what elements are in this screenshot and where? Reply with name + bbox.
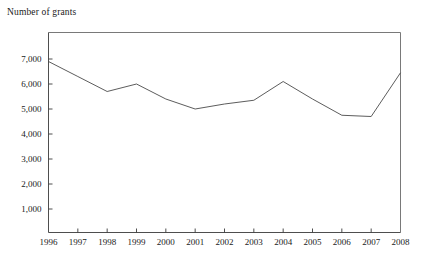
plot-axes [49,33,401,233]
x-tick-label: 2006 [333,237,352,247]
y-tick-label: 6,000 [21,79,42,89]
x-tick-label: 2001 [186,237,204,247]
x-axis-tick-marks [78,229,371,233]
x-tick-label: 1998 [98,237,117,247]
x-tick-label: 2008 [392,237,411,247]
y-tick-label: 2,000 [21,179,42,189]
x-tick-label: 2007 [362,237,381,247]
x-tick-label: 1999 [128,237,147,247]
line-chart-plot: 1,0002,0003,0004,0005,0006,0007,000 1996… [0,0,422,255]
x-tick-label: 2003 [245,237,264,247]
x-tick-label: 1997 [69,237,88,247]
x-tick-label: 2005 [304,237,323,247]
y-tick-label: 4,000 [21,129,42,139]
x-axis-tick-labels: 1996199719981999200020012002200320042005… [40,237,411,247]
y-axis-tick-marks [49,59,53,209]
x-tick-label: 1996 [40,237,59,247]
x-tick-label: 2000 [157,237,176,247]
x-tick-label: 2002 [216,237,234,247]
y-tick-label: 5,000 [21,104,42,114]
y-tick-label: 1,000 [21,204,42,214]
plot-frame-border [49,33,401,233]
data-series-line [49,62,401,117]
y-tick-label: 3,000 [21,154,42,164]
y-axis-tick-labels: 1,0002,0003,0004,0005,0006,0007,000 [21,54,42,214]
chart-container: Number of grants 1,0002,0003,0004,0005,0… [0,0,422,255]
y-tick-label: 7,000 [21,54,42,64]
x-tick-label: 2004 [274,237,293,247]
